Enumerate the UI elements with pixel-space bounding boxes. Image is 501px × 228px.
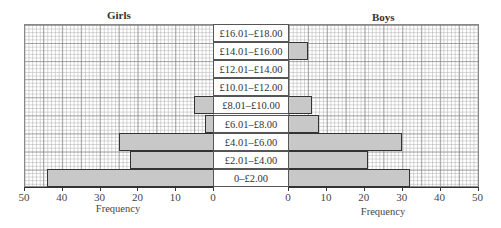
- category-label: £16.01–£18.00: [213, 24, 289, 42]
- boys-bar: [288, 169, 410, 187]
- boys-bar: [288, 42, 308, 60]
- tick-label: 20: [358, 191, 369, 203]
- category-label: £8.01–£10.00: [213, 96, 289, 114]
- category-label: £10.01–£12.00: [213, 78, 289, 96]
- category-labels: £16.01–£18.00£14.01–£16.00£12.01–£14.00£…: [213, 24, 289, 187]
- girls-bar: [47, 169, 214, 187]
- tick-label: 10: [320, 191, 331, 203]
- boys-x-axis: [288, 187, 479, 188]
- tick-label: 30: [94, 191, 105, 203]
- boys-x-label: Frequency: [361, 206, 405, 217]
- tick-label: 20: [132, 191, 143, 203]
- category-label: £2.01–£4.00: [213, 151, 289, 169]
- category-label: £6.01–£8.00: [213, 115, 289, 133]
- girls-x-axis: [24, 187, 214, 188]
- girls-bar: [119, 133, 215, 151]
- category-label: £14.01–£16.00: [213, 42, 289, 60]
- boys-title: Boys: [372, 11, 395, 23]
- category-label: 0–£2.00: [213, 169, 289, 187]
- pocket-money-pyramid-chart: Girls Boys £16.01–£18.00£14.01–£16.00£12…: [0, 0, 501, 228]
- boys-bar: [288, 151, 368, 169]
- girls-bar: [130, 151, 214, 169]
- boys-bar: [288, 133, 402, 151]
- boys-bar: [288, 115, 319, 133]
- girls-bar: [194, 96, 214, 114]
- tick-label: 10: [170, 191, 181, 203]
- tick-label: 0: [210, 191, 216, 203]
- tick-label: 50: [19, 191, 30, 203]
- girls-x-label: Frequency: [96, 203, 140, 214]
- tick-label: 40: [434, 191, 445, 203]
- girls-title: Girls: [107, 9, 131, 21]
- category-label: £4.01–£6.00: [213, 133, 289, 151]
- tick-label: 0: [285, 191, 291, 203]
- tick-label: 40: [56, 191, 67, 203]
- category-label: £12.01–£14.00: [213, 60, 289, 78]
- tick-label: 50: [472, 191, 483, 203]
- boys-bar: [288, 96, 312, 114]
- tick-label: 30: [396, 191, 407, 203]
